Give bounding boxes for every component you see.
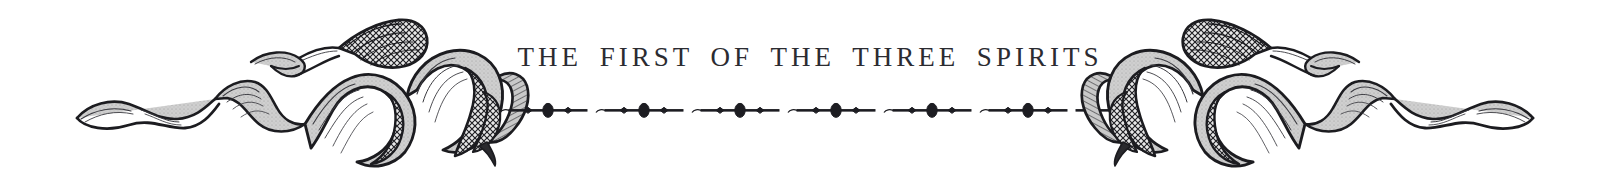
engraved-ribbon-ornament-right-icon: [1035, 0, 1555, 175]
page-title: THE FIRST OF THE THREE SPIRITS: [495, 44, 1125, 71]
engraved-ribbon-ornament-left-icon: [55, 0, 575, 175]
decorative-dotted-rule: [498, 100, 1122, 120]
chapter-header-band: THE FIRST OF THE THREE SPIRITS: [0, 0, 1611, 175]
chapter-title-container: THE FIRST OF THE THREE SPIRITS: [495, 44, 1125, 71]
